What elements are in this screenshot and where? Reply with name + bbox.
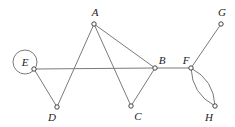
edges — [34, 24, 221, 107]
node-g — [219, 22, 223, 26]
node-label-h: H — [204, 111, 214, 123]
edge-a-b — [94, 24, 155, 68]
node-label-c: C — [134, 110, 142, 122]
edge-e-d — [34, 69, 57, 107]
node-label-d: D — [47, 111, 56, 123]
node-d — [55, 105, 59, 109]
node-c — [129, 104, 133, 108]
edge-a-d — [57, 24, 94, 107]
node-e — [32, 67, 36, 71]
edge-f-g — [191, 24, 221, 68]
edge-f-h — [191, 68, 215, 106]
edge-e-b — [34, 68, 155, 69]
edge-f-h — [191, 68, 215, 106]
node-a — [92, 22, 96, 26]
node-label-g: G — [218, 6, 226, 18]
node-f — [189, 66, 193, 70]
node-label-a: A — [91, 6, 99, 18]
labels: ABCDEFGH — [21, 6, 226, 123]
node-label-f: F — [182, 54, 190, 66]
nodes — [32, 22, 223, 109]
node-label-e: E — [21, 56, 29, 68]
graph-diagram: ABCDEFGH — [0, 0, 235, 127]
edge-a-c — [94, 24, 131, 106]
node-h — [213, 104, 217, 108]
node-label-b: B — [159, 54, 166, 66]
edge-b-c — [131, 68, 155, 106]
node-b — [153, 66, 157, 70]
